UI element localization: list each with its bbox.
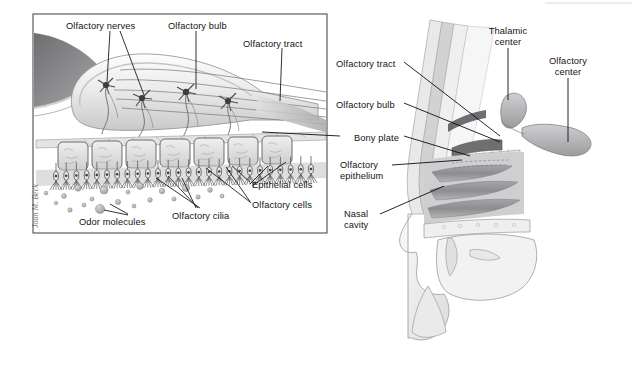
- inset-label-olfactory-tract: Olfactory tract: [243, 39, 302, 50]
- head-label-bony-plate: Bony plate: [354, 133, 399, 144]
- inset-label-olfactory-cells: Olfactory cells: [252, 200, 312, 211]
- inset-label-olfactory-nerves: Olfactory nerves: [66, 21, 135, 32]
- inset-label-olfactory-cilia: Olfactory cilia: [172, 211, 229, 222]
- artist-signature: Joan M. Beck: [31, 184, 40, 228]
- head-label-nasal-cavity: Nasal cavity: [344, 209, 368, 231]
- head-label-olfactory-center: Olfactory center: [528, 56, 608, 78]
- inset-label-olfactory-bulb: Olfactory bulb: [168, 21, 227, 32]
- head-label-thalamic-center: Thalamic center: [468, 26, 548, 48]
- head-label-olfactory-epithelium: Olfactory epithelium: [340, 160, 383, 182]
- head-label-olfactory-bulb: Olfactory bulb: [336, 100, 395, 111]
- inset-label-odor-molecules: Odor molecules: [79, 217, 146, 228]
- head-label-olfactory-tract: Olfactory tract: [336, 59, 395, 70]
- inset-label-epithelial-cells: Epithelial cells: [252, 180, 313, 191]
